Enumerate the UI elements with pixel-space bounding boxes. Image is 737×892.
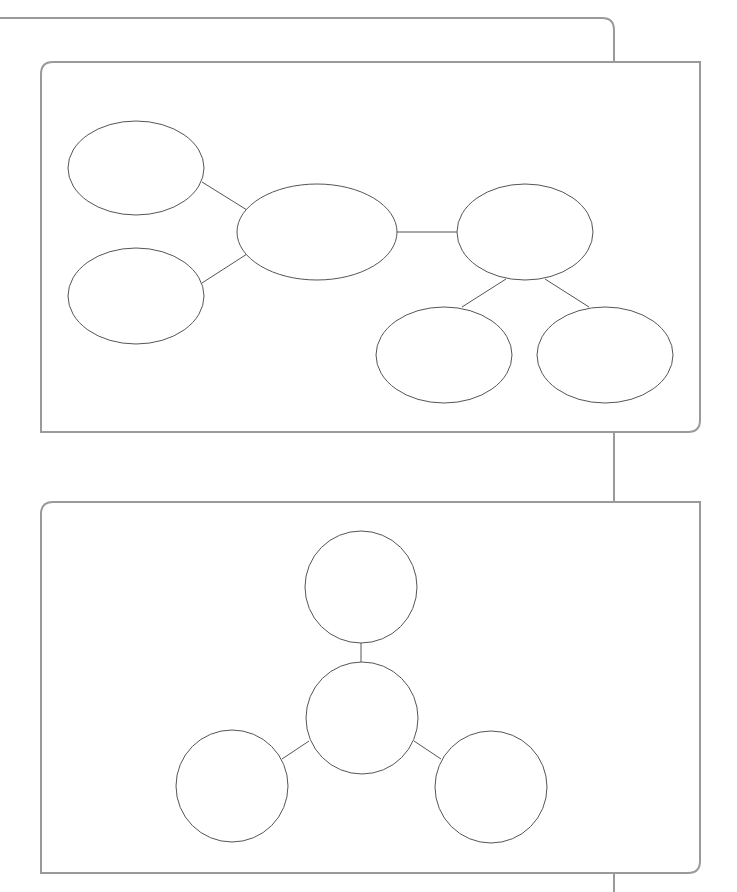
diagram-canvas [0, 0, 737, 892]
panel-1 [41, 62, 700, 432]
ellipse-node-B[interactable] [68, 248, 204, 344]
ellipse-node-A[interactable] [68, 121, 204, 215]
ellipse-node-F[interactable] [537, 307, 673, 403]
circle-node-top[interactable] [305, 531, 417, 643]
circle-node-left[interactable] [176, 730, 288, 842]
panel-2 [41, 502, 700, 873]
ellipse-node-D[interactable] [457, 184, 593, 280]
circle-node-right[interactable] [435, 731, 547, 843]
panels [41, 62, 700, 873]
ellipse-node-C[interactable] [237, 184, 397, 280]
circle-node-center[interactable] [306, 662, 418, 774]
frame-top-connector [0, 18, 614, 62]
ellipse-node-E[interactable] [376, 307, 512, 403]
